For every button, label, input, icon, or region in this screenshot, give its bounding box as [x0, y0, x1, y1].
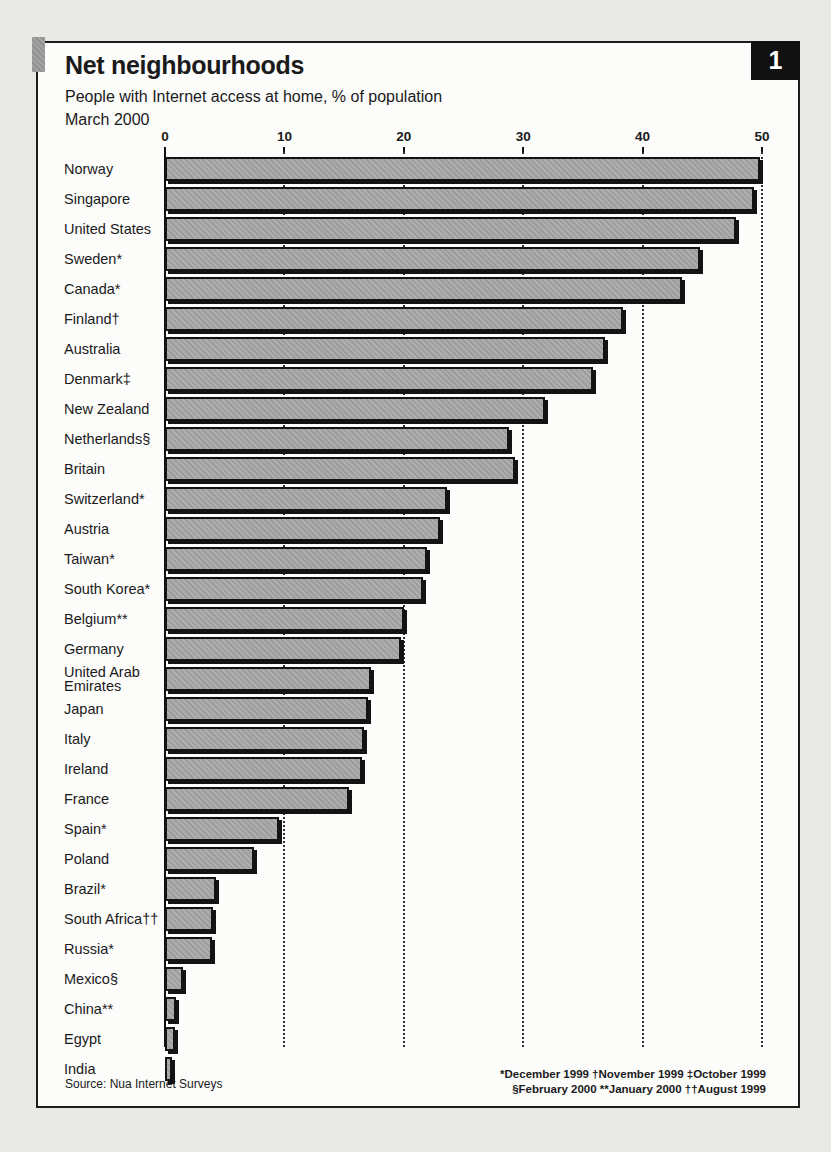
- category-label: Finland†: [64, 304, 165, 334]
- category-label: South Africa††: [64, 904, 165, 934]
- category-label: Italy: [64, 724, 165, 754]
- category-label: India: [64, 1054, 165, 1084]
- bar: [165, 877, 216, 901]
- bar: [165, 1027, 175, 1051]
- corner-tab-decoration: [32, 37, 45, 72]
- category-label: Poland: [64, 844, 165, 874]
- bar: [165, 517, 440, 541]
- category-label: Austria: [64, 514, 165, 544]
- bar: [165, 997, 176, 1021]
- figure-number-badge: 1: [751, 41, 800, 80]
- category-label: United Arab Emirates: [64, 664, 165, 694]
- bar: [165, 247, 700, 271]
- bar: [165, 187, 754, 211]
- axis-tick-label: 40: [626, 129, 660, 144]
- category-label: Taiwan*: [64, 544, 165, 574]
- axis-tick-label: 30: [506, 129, 540, 144]
- bar: [165, 217, 736, 241]
- footnotes: *December 1999 †November 1999 ‡October 1…: [500, 1067, 766, 1097]
- page: { "page": { "number_badge": "1" }, "char…: [0, 0, 831, 1152]
- bar: [165, 487, 447, 511]
- category-label: Australia: [64, 334, 165, 364]
- category-label: Mexico§: [64, 964, 165, 994]
- category-label: Egypt: [64, 1024, 165, 1054]
- bar: [165, 637, 401, 661]
- bar: [165, 727, 364, 751]
- category-label: Spain*: [64, 814, 165, 844]
- bar: [165, 967, 183, 991]
- axis-tick-label: 20: [387, 129, 421, 144]
- bar: [165, 367, 593, 391]
- chart-figure: 1 Net neighbourhoods People with Interne…: [36, 41, 800, 1108]
- category-label: Norway: [64, 154, 165, 184]
- category-label: Sweden*: [64, 244, 165, 274]
- category-label: Russia*: [64, 934, 165, 964]
- bar: [165, 757, 362, 781]
- bar: [165, 817, 279, 841]
- plot-area: 01020304050NorwaySingaporeUnited StatesS…: [38, 43, 798, 1106]
- bar: [165, 607, 404, 631]
- bar: [165, 907, 213, 931]
- category-label: Singapore: [64, 184, 165, 214]
- bar: [165, 427, 509, 451]
- bar: [165, 1057, 172, 1081]
- category-label: Belgium**: [64, 604, 165, 634]
- category-label: Brazil*: [64, 874, 165, 904]
- category-label: South Korea*: [64, 574, 165, 604]
- bar: [165, 307, 623, 331]
- category-label: Japan: [64, 694, 165, 724]
- axis-tick-label: 50: [745, 129, 779, 144]
- category-label: France: [64, 784, 165, 814]
- category-label: Germany: [64, 634, 165, 664]
- category-label: Switzerland*: [64, 484, 165, 514]
- bar: [165, 547, 427, 571]
- bar: [165, 337, 605, 361]
- category-label: Canada*: [64, 274, 165, 304]
- bar: [165, 697, 368, 721]
- category-label: New Zealand: [64, 394, 165, 424]
- bar: [165, 157, 760, 181]
- bar: [165, 277, 682, 301]
- bar: [165, 577, 423, 601]
- category-label: Ireland: [64, 754, 165, 784]
- category-label: China**: [64, 994, 165, 1024]
- category-label: Netherlands§: [64, 424, 165, 454]
- axis-tick-label: 10: [267, 129, 301, 144]
- bar: [165, 397, 545, 421]
- bar: [165, 937, 212, 961]
- category-label: Denmark‡: [64, 364, 165, 394]
- axis-tick-label: 0: [148, 129, 182, 144]
- footnote-line-2: §February 2000 **January 2000 ††August 1…: [500, 1082, 766, 1097]
- footnote-line-1: *December 1999 †November 1999 ‡October 1…: [500, 1067, 766, 1082]
- category-label: Britain: [64, 454, 165, 484]
- bar: [165, 457, 515, 481]
- category-label: United States: [64, 214, 165, 244]
- bar: [165, 847, 254, 871]
- bar: [165, 787, 349, 811]
- bar: [165, 667, 371, 691]
- gridline: [761, 152, 763, 1047]
